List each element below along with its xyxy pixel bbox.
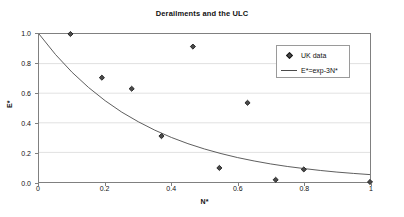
legend-label-uk-data: UK data (301, 52, 326, 59)
x-axis-tick-label: 0.8 (300, 185, 310, 192)
x-axis-tick-labels: 00.20.40.60.81 (38, 185, 371, 199)
legend-item-uk-data: UK data (277, 47, 349, 63)
legend-label-model: E*=exp-3N* (301, 67, 338, 74)
x-axis-tick-mark (238, 183, 239, 186)
x-axis-tick-mark (371, 183, 372, 186)
data-point-marker (68, 31, 73, 36)
data-point-marker (301, 167, 306, 172)
y-axis-tick-labels: 0.00.20.40.60.81.0 (0, 33, 34, 183)
x-axis-tick-label: 0 (36, 185, 40, 192)
y-axis-tick-label: 0.6 (21, 90, 31, 97)
x-axis-tick-mark (304, 183, 305, 186)
y-axis-tick-mark (35, 93, 38, 94)
x-axis-tick-label: 0.2 (100, 185, 110, 192)
chart-legend: UK data E*=exp-3N* (276, 45, 350, 78)
x-axis-tick-label: 0.4 (166, 185, 176, 192)
chart-title: Derailments and the ULC (0, 9, 404, 18)
diamond-marker-icon (277, 53, 301, 58)
legend-item-model: E*=exp-3N* (277, 62, 349, 78)
line-sample-icon (277, 70, 301, 71)
x-axis-tick-mark (171, 183, 172, 186)
y-axis-tick-label: 1.0 (21, 30, 31, 37)
data-point-marker (99, 75, 104, 80)
y-axis-tick-label: 0.0 (21, 180, 31, 187)
data-point-marker (217, 165, 222, 170)
x-axis-title: N* (38, 198, 371, 205)
data-point-marker (190, 44, 195, 49)
y-axis-tick-label: 0.8 (21, 60, 31, 67)
data-point-marker (245, 100, 250, 105)
y-axis-tick-label: 0.2 (21, 150, 31, 157)
y-axis-tick-mark (35, 63, 38, 64)
y-axis-tick-label: 0.4 (21, 120, 31, 127)
data-point-marker (273, 177, 278, 182)
x-axis-tick-label: 0.6 (233, 185, 243, 192)
y-axis-tick-mark (35, 153, 38, 154)
y-axis-tick-mark (35, 33, 38, 34)
y-axis-title: E* (6, 101, 13, 108)
data-point-marker (129, 86, 134, 91)
chart-figure: Derailments and the ULC 0.00.20.40.60.81… (0, 0, 404, 217)
x-axis-tick-mark (105, 183, 106, 186)
y-axis-tick-mark (35, 123, 38, 124)
x-axis-tick-mark (38, 183, 39, 186)
x-axis-tick-label: 1 (369, 185, 373, 192)
